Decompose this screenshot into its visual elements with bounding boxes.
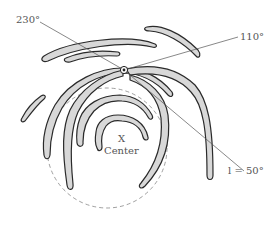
arm-right-inner xyxy=(130,75,169,188)
label-longitude-110: 110° xyxy=(240,32,264,42)
arm-top-short xyxy=(64,51,119,62)
arm-top-right xyxy=(145,26,200,57)
galaxy-diagram xyxy=(0,0,278,231)
sight-line-230 xyxy=(40,22,124,70)
arm-left-small xyxy=(21,95,45,122)
spiral-arms xyxy=(21,26,213,189)
sun-marker-icon xyxy=(120,66,127,73)
galactic-center-mark: X xyxy=(118,134,125,144)
label-longitude-230: 230° xyxy=(16,15,40,25)
galactic-center-label: Center xyxy=(104,146,139,156)
label-longitude-50: l = 50° xyxy=(228,166,264,176)
arm-top-outer xyxy=(42,39,157,61)
